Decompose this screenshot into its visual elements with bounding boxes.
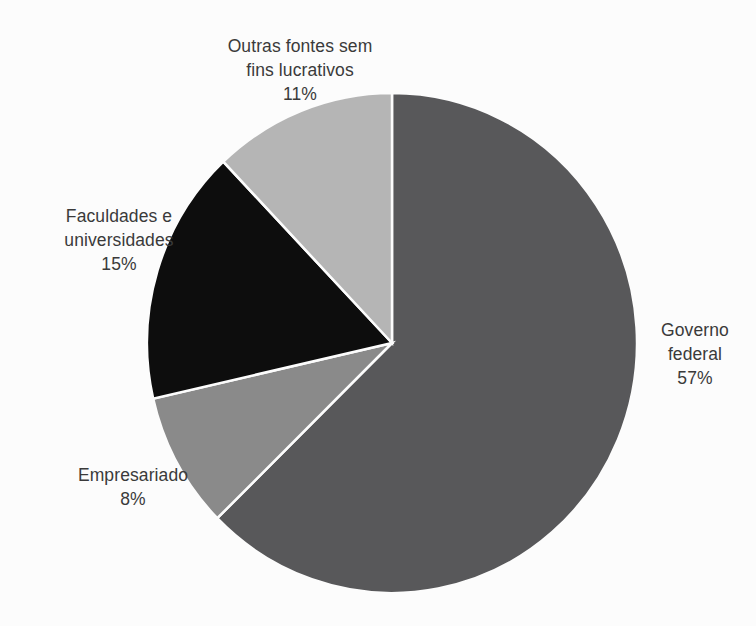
slice-label-empresariado: Empresariado 8%: [38, 463, 228, 511]
slice-label-faculdades-universidades: Faculdades e universidades 15%: [24, 204, 214, 276]
slice-value-outras-fontes: 11%: [180, 82, 420, 106]
pie-chart: Outras fontes sem fins lucrativos 11% Fa…: [0, 0, 756, 626]
slice-label-line: Empresariado: [38, 463, 228, 487]
slice-label-line: federal: [640, 342, 750, 366]
slice-label-line: universidades: [24, 228, 214, 252]
slice-label-outras-fontes: Outras fontes sem fins lucrativos 11%: [180, 34, 420, 106]
slice-label-governo-federal: Governo federal 57%: [640, 318, 750, 390]
slice-value-faculdades-universidades: 15%: [24, 252, 214, 276]
slice-value-governo-federal: 57%: [640, 366, 750, 390]
slice-label-line: fins lucrativos: [180, 58, 420, 82]
slice-value-empresariado: 8%: [38, 487, 228, 511]
pie-slice-group: [147, 93, 637, 593]
slice-label-line: Governo: [640, 318, 750, 342]
slice-label-line: Outras fontes sem: [180, 34, 420, 58]
slice-label-line: Faculdades e: [24, 204, 214, 228]
